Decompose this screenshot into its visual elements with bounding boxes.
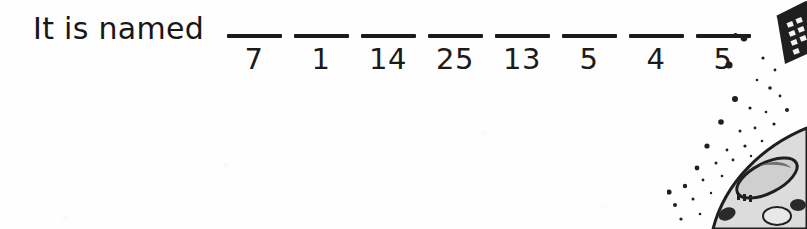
blank-writing-line[interactable] [629, 34, 684, 38]
blank-slot[interactable]: 14 [360, 34, 416, 74]
blank-slot[interactable]: 13 [494, 34, 550, 74]
blank-code-number: 13 [503, 44, 541, 74]
sentence-period [733, 33, 738, 38]
blank-code-number: 1 [312, 44, 331, 74]
blank-code-number: 5 [714, 44, 733, 74]
prompt-text: It is named [33, 12, 204, 46]
blank-code-number: 14 [369, 44, 407, 74]
blank-writing-line[interactable] [495, 34, 550, 38]
solar-panel-icon [777, 2, 807, 64]
blank-slot[interactable]: 1 [293, 34, 349, 74]
blank-slot[interactable]: 4 [628, 34, 684, 74]
blank-slot[interactable]: 5 [561, 34, 617, 74]
blank-slot[interactable]: 7 [226, 34, 282, 74]
blank-writing-line[interactable] [294, 34, 349, 38]
blank-code-number: 5 [580, 44, 599, 74]
blank-slot[interactable]: 5 [695, 34, 751, 74]
spacecraft-hull [713, 128, 807, 229]
blank-slot[interactable]: 25 [427, 34, 483, 74]
blank-writing-line[interactable] [562, 34, 617, 38]
blank-writing-line[interactable] [696, 34, 751, 38]
blank-writing-line[interactable] [428, 34, 483, 38]
blank-code-number: 25 [436, 44, 474, 74]
blank-code-number: 7 [245, 44, 264, 74]
blank-writing-line[interactable] [361, 34, 416, 38]
blank-code-number: 4 [647, 44, 666, 74]
worksheet-page: It is named 7 1 14 25 13 5 4 [0, 0, 807, 229]
blank-writing-line[interactable] [227, 34, 282, 38]
answer-blank-row: 7 1 14 25 13 5 4 5 [226, 34, 762, 74]
